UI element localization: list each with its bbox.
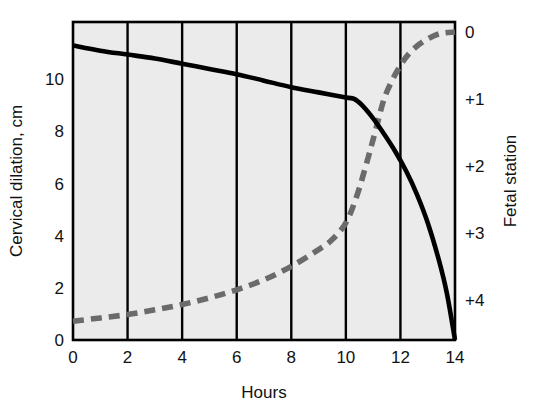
y2-axis-title: Fetal station bbox=[501, 135, 520, 228]
y2tick-0: 0 bbox=[465, 23, 474, 42]
ytick-6: 6 bbox=[55, 175, 64, 194]
xtick-14: 14 bbox=[446, 348, 465, 367]
ytick-2: 2 bbox=[55, 279, 64, 298]
y2tick-+1: +1 bbox=[465, 90, 484, 109]
xtick-0: 0 bbox=[68, 348, 77, 367]
ytick-10: 10 bbox=[45, 70, 64, 89]
xtick-4: 4 bbox=[177, 348, 186, 367]
y2tick-+4: +4 bbox=[465, 291, 484, 310]
x-axis-title: Hours bbox=[241, 383, 286, 402]
y-axis-tick-labels: 0246810 bbox=[45, 70, 64, 350]
ytick-0: 0 bbox=[55, 331, 64, 350]
xtick-6: 6 bbox=[232, 348, 241, 367]
xtick-10: 10 bbox=[336, 348, 355, 367]
ytick-4: 4 bbox=[55, 227, 64, 246]
ytick-8: 8 bbox=[55, 122, 64, 141]
xtick-8: 8 bbox=[287, 348, 296, 367]
y2tick-+2: +2 bbox=[465, 157, 484, 176]
y2tick-+3: +3 bbox=[465, 224, 484, 243]
y2-axis-tick-labels: 0+1+2+3+4 bbox=[465, 23, 484, 310]
xtick-2: 2 bbox=[123, 348, 132, 367]
y-axis-title: Cervical dilation, cm bbox=[7, 105, 26, 257]
chart-canvas: 02468101214 0246810 0+1+2+3+4 Hours Cerv… bbox=[0, 0, 540, 420]
xtick-12: 12 bbox=[391, 348, 410, 367]
partogram-figure: 02468101214 0246810 0+1+2+3+4 Hours Cerv… bbox=[0, 0, 540, 420]
x-axis-tick-labels: 02468101214 bbox=[68, 348, 464, 367]
